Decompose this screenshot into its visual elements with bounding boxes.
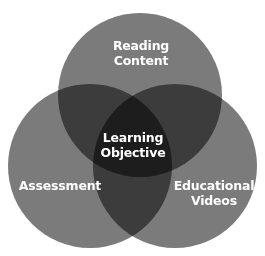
label-educational-videos: Educational Videos xyxy=(172,178,256,208)
label-reading-line1: Reading xyxy=(103,38,179,53)
label-videos-line1: Educational xyxy=(172,178,256,193)
circle-educational-videos xyxy=(93,84,257,248)
label-assessment: Assessment xyxy=(18,178,102,193)
label-assessment-line1: Assessment xyxy=(18,178,102,193)
label-reading-content: Reading Content xyxy=(103,38,179,68)
label-reading-line2: Content xyxy=(103,53,179,68)
label-videos-line2: Videos xyxy=(172,193,256,208)
label-center-line2: Objective xyxy=(95,145,171,160)
label-learning-objective: Learning Objective xyxy=(95,130,171,160)
label-center-line1: Learning xyxy=(95,130,171,145)
